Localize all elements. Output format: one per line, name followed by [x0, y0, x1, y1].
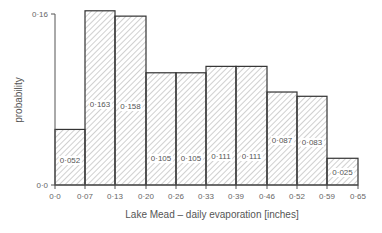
bar-value-label: 0·163	[90, 100, 111, 109]
x-tick-label: 0·0	[49, 192, 61, 201]
histogram-bar	[146, 73, 176, 185]
bar-value-label: 0·052	[60, 156, 81, 165]
x-tick-label: 0·33	[198, 192, 215, 201]
histogram-bar	[176, 73, 206, 185]
histogram-chart: 0·0520·1630·1580·1050·1050·1110·1110·087…	[0, 0, 382, 233]
x-tick-label: 0·26	[168, 192, 185, 201]
histogram-bar	[85, 11, 115, 185]
x-tick-label: 0·59	[319, 192, 336, 201]
bar-value-label: 0·025	[332, 168, 353, 177]
bar-value-label: 0·111	[242, 152, 262, 161]
bar-value-label: 0·105	[181, 154, 202, 163]
x-tick-label: 0·07	[77, 192, 94, 201]
x-tick-label: 0·52	[289, 192, 306, 201]
histogram-bar	[206, 66, 236, 185]
x-tick-label: 0·20	[138, 192, 155, 201]
x-tick-label: 0·13	[107, 192, 124, 201]
histogram-bar	[115, 16, 146, 185]
y-tick-label: 0·16	[32, 10, 49, 19]
bars-group	[55, 11, 358, 185]
x-tick-label: 0·46	[259, 192, 276, 201]
bar-value-label: 0·105	[151, 154, 172, 163]
x-axis-title: Lake Mead – daily evaporation [inches]	[125, 209, 299, 220]
y-axis-title: probability	[13, 77, 24, 123]
bar-value-label: 0·111	[211, 152, 231, 161]
bar-value-label: 0·158	[120, 102, 141, 111]
x-tick-label: 0·65	[350, 192, 367, 201]
bar-value-label: 0·083	[302, 138, 323, 147]
x-tick-label: 0·39	[228, 192, 245, 201]
bar-value-label: 0·087	[272, 136, 293, 145]
y-tick-label: 0·0	[36, 181, 48, 190]
histogram-bar	[236, 66, 267, 185]
